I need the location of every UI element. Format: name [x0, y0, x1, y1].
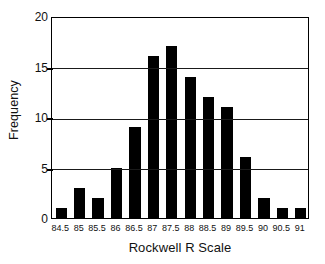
x-axis-tick-label: 90	[254, 223, 272, 233]
histogram-bar	[258, 198, 269, 218]
x-axis-tick-labels: 84.58585.58686.58787.58888.58989.59090.5…	[51, 223, 309, 237]
y-axis-tick-label: 0	[26, 213, 48, 225]
gridline	[52, 169, 308, 170]
x-axis-tick-label: 87.5	[162, 223, 180, 233]
y-axis-tick-label: 10	[26, 112, 48, 124]
x-axis-tick-label: 88	[180, 223, 198, 233]
x-axis-tick-label: 90.5	[272, 223, 290, 233]
x-axis-tick-label: 86.5	[125, 223, 143, 233]
y-axis-tick-label: 20	[26, 11, 48, 23]
histogram-bar	[56, 208, 67, 218]
x-axis-title: Rockwell R Scale	[51, 240, 309, 255]
plot-area	[51, 17, 309, 219]
x-axis-tick-label: 85	[69, 223, 87, 233]
x-axis-tick-label: 85.5	[88, 223, 106, 233]
y-axis-title: Frequency	[7, 60, 21, 160]
histogram-bar	[129, 127, 140, 218]
y-axis-tick-label: 15	[26, 62, 48, 74]
histogram-bar	[166, 46, 177, 218]
histogram-bar	[92, 198, 103, 218]
histogram-bar	[111, 168, 122, 219]
histogram-bar	[74, 188, 85, 218]
x-axis-tick-label: 84.5	[51, 223, 69, 233]
y-axis-tick-labels: 05101520	[22, 0, 48, 264]
y-axis-tick-mark	[47, 118, 53, 120]
histogram-figure: 05101520 Frequency 84.58585.58686.58787.…	[0, 0, 325, 264]
histogram-bar	[240, 157, 251, 218]
x-axis-tick-label: 89	[217, 223, 235, 233]
x-axis-tick-label: 91	[291, 223, 309, 233]
x-axis-tick-label: 88.5	[198, 223, 216, 233]
x-axis-tick-label: 89.5	[235, 223, 253, 233]
gridline	[52, 119, 308, 120]
gridline	[52, 68, 308, 69]
histogram-bar	[295, 208, 306, 218]
histogram-bar	[221, 107, 232, 218]
histogram-bar	[185, 77, 196, 218]
x-axis-tick-label: 86	[106, 223, 124, 233]
y-axis-tick-label: 5	[26, 163, 48, 175]
histogram-bar	[148, 56, 159, 218]
y-axis-tick-mark	[47, 68, 53, 70]
y-axis-tick-mark	[47, 169, 53, 171]
x-axis-tick-label: 87	[143, 223, 161, 233]
histogram-bar	[203, 97, 214, 218]
histogram-bar	[277, 208, 288, 218]
